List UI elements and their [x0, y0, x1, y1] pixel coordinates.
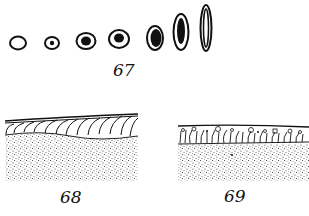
fig-68-tissue: [5, 114, 138, 181]
figure-label-67: 67: [113, 62, 135, 79]
fig-69-tissue: [178, 125, 309, 181]
fig-67-cells: [10, 5, 212, 51]
figure-label-69: 69: [224, 188, 246, 205]
cell-2: [45, 37, 59, 49]
cell-3: [77, 33, 96, 49]
cell-6: [174, 14, 189, 50]
cell-4: [109, 30, 129, 48]
illustration-plate: 67 68 69: [0, 0, 309, 216]
cell-1: [10, 37, 26, 50]
figure-label-68: 68: [60, 189, 82, 206]
figure-drawings: [0, 0, 309, 216]
cell-7: [201, 5, 212, 51]
cell-5: [147, 26, 163, 50]
